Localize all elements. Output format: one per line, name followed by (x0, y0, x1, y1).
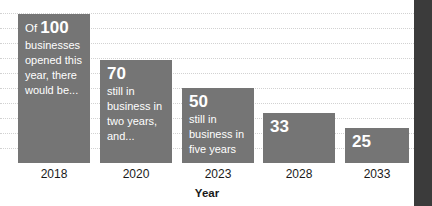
x-axis-tick-labels: 2018 2020 2023 2028 2033 (0, 166, 414, 186)
x-tick-2018: 2018 (18, 166, 90, 182)
right-edge-band (414, 0, 432, 206)
bar-chart: Of 100 businesses opened this year, ther… (0, 0, 432, 206)
bar-2020[interactable]: 70 still in business in two years, and..… (100, 60, 172, 163)
bar-2033[interactable]: 25 (345, 128, 409, 163)
x-tick-2020: 2020 (100, 166, 172, 182)
bar-2023[interactable]: 50 still in business in five years (182, 88, 254, 163)
bar-number-2020: 70 (107, 64, 126, 83)
bar-number-2018: 100 (40, 18, 68, 37)
bar-value-2028: 33 (270, 118, 329, 136)
plot-area: Of 100 businesses opened this year, ther… (0, 0, 414, 163)
bar-value-2020: 70 (107, 65, 166, 83)
bar-2028[interactable]: 33 (263, 113, 335, 163)
bar-value-2033: 25 (352, 133, 403, 151)
x-tick-2028: 2028 (263, 166, 335, 182)
x-axis-title: Year (0, 186, 414, 200)
bar-value-2018: Of 100 (25, 19, 84, 37)
x-tick-2023: 2023 (182, 166, 254, 182)
bar-number-2023: 50 (189, 92, 208, 111)
bar-number-2033: 25 (352, 132, 371, 151)
bar-caption-2023: still in business in five years (189, 112, 248, 157)
bar-number-2028: 33 (270, 117, 289, 136)
bar-caption-2020: still in business in two years, and... (107, 84, 166, 144)
bar-value-2023: 50 (189, 93, 248, 111)
x-tick-2033: 2033 (345, 166, 409, 182)
bar-lead-2018: Of (25, 22, 40, 34)
bar-caption-2018: businesses opened this year, there would… (25, 38, 84, 98)
bar-2018[interactable]: Of 100 businesses opened this year, ther… (18, 14, 90, 163)
